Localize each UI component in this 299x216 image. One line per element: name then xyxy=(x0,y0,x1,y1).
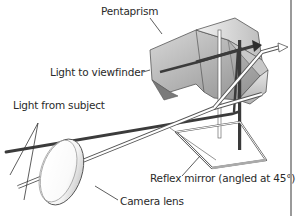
slr-optics-diagram: Pentaprism Light to viewfinder Light fro… xyxy=(0,0,299,216)
page-edge-divider xyxy=(290,0,292,216)
camera-lens-label: Camera lens xyxy=(120,195,184,207)
reflex-mirror-label: Reflex mirror (angled at 45°) xyxy=(150,172,295,184)
light-to-viewfinder-label: Light to viewfinder xyxy=(50,66,145,78)
light-from-subject-label: Light from subject xyxy=(13,99,105,111)
pentaprism-label: Pentaprism xyxy=(101,5,158,17)
pentaprism-shape xyxy=(150,18,268,104)
